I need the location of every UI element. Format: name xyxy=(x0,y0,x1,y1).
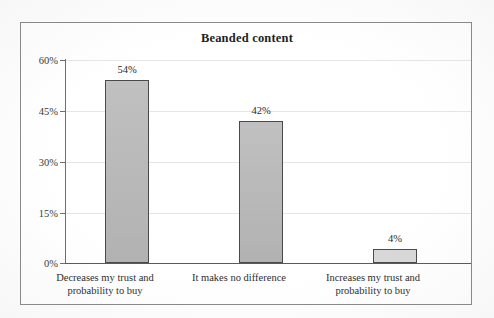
x-axis-label-decreases-trust-line2: probability to buy xyxy=(35,284,175,297)
x-axis-label-increases-trust-line2: probability to buy xyxy=(303,284,443,297)
x-axis-line xyxy=(65,263,471,264)
y-tick-label-15: 15% xyxy=(24,209,58,220)
bar-no-difference[interactable] xyxy=(239,121,283,263)
x-axis-label-increases-trust-line1: Increases my trust and xyxy=(303,271,443,284)
chart-title: Beanded content xyxy=(21,31,473,46)
bar-decreases-trust[interactable] xyxy=(105,80,149,263)
x-axis-label-increases-trust: Increases my trust and probability to bu… xyxy=(303,271,443,298)
bar-increases-trust[interactable] xyxy=(373,249,417,263)
y-tick-label-30: 30% xyxy=(24,158,58,169)
x-axis-label-decreases-trust: Decreases my trust and probability to bu… xyxy=(35,271,175,298)
data-label-increases-trust: 4% xyxy=(365,234,425,245)
y-tick-label-45: 45% xyxy=(24,107,58,118)
x-axis-label-no-difference: It makes no difference xyxy=(169,271,309,284)
chart-frame: Beanded content 60% 45% 30% 15% 0% xyxy=(20,22,472,305)
data-label-decreases-trust: 54% xyxy=(97,65,157,76)
y-tick-label-0: 0% xyxy=(24,259,58,270)
y-tick-label-60: 60% xyxy=(24,56,58,67)
plot-area: 54% 42% 4% xyxy=(66,60,471,263)
gridline-60 xyxy=(66,60,471,61)
y-axis-tick-labels: 60% 45% 30% 15% 0% xyxy=(21,23,58,306)
data-label-no-difference: 42% xyxy=(231,106,291,117)
scan-canvas: Beanded content 60% 45% 30% 15% 0% xyxy=(0,0,494,318)
x-axis-label-no-difference-line1: It makes no difference xyxy=(169,271,309,284)
x-axis-label-decreases-trust-line1: Decreases my trust and xyxy=(35,271,175,284)
